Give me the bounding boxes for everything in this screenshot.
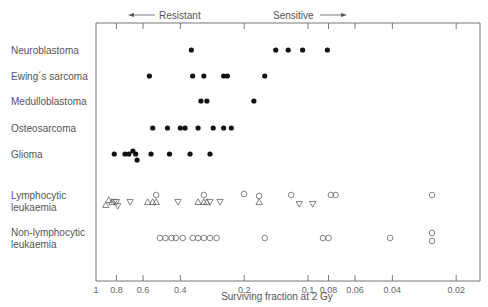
data-point	[286, 47, 291, 52]
x-tick-label: 0.04	[384, 285, 402, 295]
data-point-triangle-down	[127, 199, 133, 205]
data-point	[211, 125, 216, 130]
data-point	[207, 151, 212, 156]
data-point	[134, 157, 139, 162]
data-point	[204, 98, 209, 103]
data-point	[189, 47, 194, 52]
data-point-open-circle	[195, 235, 201, 241]
category-label: Neuroblastoma	[11, 45, 79, 56]
x-tick-label: 0.02	[447, 285, 465, 295]
category-label: leukaemia	[11, 239, 57, 250]
data-point	[178, 125, 183, 130]
data-point	[195, 125, 200, 130]
data-point	[190, 73, 195, 78]
data-point	[198, 98, 203, 103]
data-point-open-circle	[214, 235, 220, 241]
sensitive-label: Sensitive	[273, 10, 314, 21]
data-point	[262, 73, 267, 78]
data-point	[300, 47, 305, 52]
data-point-open-circle	[153, 192, 159, 198]
data-point-open-circle	[288, 192, 294, 198]
data-point	[112, 151, 117, 156]
data-point-triangle-up	[195, 199, 201, 205]
x-tick-label: 0.6	[137, 285, 150, 295]
data-point-triangle-up	[256, 199, 262, 205]
data-point	[165, 125, 170, 130]
category-label: Lymphocytic	[11, 190, 66, 201]
data-point-open-circle	[320, 235, 326, 241]
data-point-open-circle	[387, 235, 393, 241]
data-point	[229, 125, 234, 130]
data-point-open-circle	[180, 235, 186, 241]
data-point	[148, 151, 153, 156]
data-point	[182, 125, 187, 130]
resistant-arrow-head-icon	[128, 13, 134, 17]
data-point-open-circle	[256, 193, 262, 199]
category-label: Non-lymphocytic	[11, 227, 85, 238]
data-point	[147, 73, 152, 78]
sensitive-arrow-head-icon	[341, 13, 347, 17]
data-point	[225, 73, 230, 78]
data-point-open-circle	[241, 191, 247, 197]
data-point-triangle-down	[296, 201, 302, 207]
data-point	[273, 47, 278, 52]
data-point-open-circle	[173, 235, 179, 241]
data-point-open-circle	[207, 235, 213, 241]
category-label: Ewing´s sarcoma	[11, 71, 88, 82]
data-point	[251, 98, 256, 103]
resistant-label: Resistant	[159, 10, 201, 21]
x-tick-label: 0.8	[110, 285, 123, 295]
data-point-open-circle	[157, 235, 163, 241]
category-label: Medulloblastoma	[11, 96, 87, 107]
data-point	[221, 125, 226, 130]
category-label: leukaemia	[11, 202, 57, 213]
data-point-triangle-down	[217, 199, 223, 205]
data-point-open-circle	[262, 235, 268, 241]
category-label: Osteosarcoma	[11, 123, 76, 134]
data-point-open-circle	[429, 230, 435, 236]
data-point-open-circle	[163, 235, 169, 241]
data-point-triangle-down	[175, 199, 181, 205]
data-point-open-circle	[429, 192, 435, 198]
x-axis-label: Surviving fraction at 2 Gy	[221, 291, 333, 302]
data-point-open-circle	[326, 235, 332, 241]
data-point	[187, 151, 192, 156]
data-point-open-circle	[201, 235, 207, 241]
data-point-open-circle	[201, 192, 207, 198]
category-label: Glioma	[11, 149, 43, 160]
data-point	[133, 151, 138, 156]
data-point	[325, 47, 330, 52]
data-point	[201, 73, 206, 78]
data-point	[150, 125, 155, 130]
x-tick-label: 0.4	[174, 285, 187, 295]
chart: NeuroblastomaEwing´s sarcomaMedulloblast…	[0, 0, 488, 307]
data-point	[167, 151, 172, 156]
x-tick-label: 1	[93, 285, 98, 295]
x-tick-label: 0.06	[346, 285, 364, 295]
data-point-open-circle	[190, 235, 196, 241]
data-point-triangle-down	[310, 201, 316, 207]
data-point-open-circle	[429, 238, 435, 244]
